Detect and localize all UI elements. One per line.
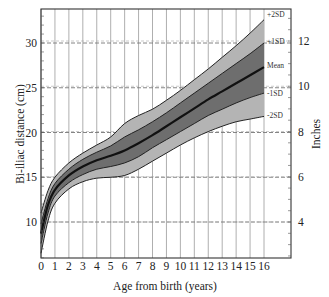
x-tick-label: 4 bbox=[94, 260, 100, 272]
x-tick-label: 13 bbox=[216, 260, 228, 272]
y-tick-label-inches: 8 bbox=[298, 126, 304, 138]
y-tick-label-cm: 25 bbox=[26, 82, 38, 94]
growth-chart: 012345678910111213141516 1015202530 4681… bbox=[0, 0, 329, 297]
y-tick-label-inches: 6 bbox=[298, 171, 304, 183]
x-tick-label: 12 bbox=[203, 260, 215, 272]
y-axis-title: Bi-iliac distance (cm) bbox=[14, 84, 27, 184]
y-tick-label-cm: 10 bbox=[26, 216, 38, 228]
x-tick-label: 2 bbox=[66, 260, 72, 272]
x-tick-label: 10 bbox=[175, 260, 187, 272]
x-tick-label: 0 bbox=[38, 260, 44, 272]
band-label-1sd: +1SD bbox=[267, 37, 285, 46]
x-axis-ticks: 012345678910111213141516 bbox=[38, 260, 270, 272]
y-tick-label-inches: 12 bbox=[298, 35, 310, 47]
x-tick-label: 14 bbox=[230, 260, 242, 272]
x-tick-label: 5 bbox=[108, 260, 114, 272]
x-axis-title: Age from birth (years) bbox=[113, 280, 217, 293]
band-label-2sd: -2SD bbox=[267, 111, 283, 120]
y-tick-label-inches: 10 bbox=[298, 80, 310, 92]
y-axis-title-right: Inches bbox=[310, 118, 322, 149]
x-tick-label: 8 bbox=[150, 260, 156, 272]
band-label-1sd: -1SD bbox=[267, 89, 283, 98]
y-tick-label-cm: 30 bbox=[26, 37, 38, 49]
band-label-mean: Mean bbox=[267, 61, 284, 70]
x-tick-label: 9 bbox=[164, 260, 170, 272]
x-tick-label: 15 bbox=[244, 260, 256, 272]
y-tick-label-inches: 4 bbox=[298, 216, 304, 228]
x-tick-label: 1 bbox=[52, 260, 58, 272]
band-labels: +2SD+1SDMean-1SD-2SD bbox=[267, 10, 285, 120]
y-tick-label-cm: 15 bbox=[26, 171, 38, 183]
x-tick-label: 16 bbox=[258, 260, 270, 272]
x-tick-label: 6 bbox=[122, 260, 128, 272]
band-label-2sd: +2SD bbox=[267, 10, 285, 19]
x-tick-label: 11 bbox=[189, 260, 200, 272]
y-tick-label-cm: 20 bbox=[26, 127, 38, 139]
x-tick-label: 3 bbox=[80, 260, 86, 272]
x-tick-label: 7 bbox=[136, 260, 142, 272]
